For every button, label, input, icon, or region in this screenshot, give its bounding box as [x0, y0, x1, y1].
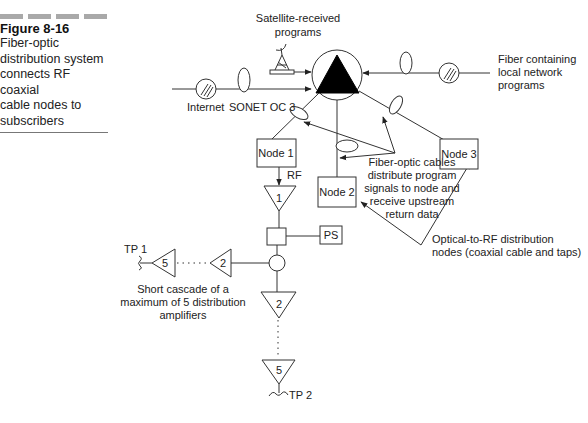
satellite-label: Satellite-received [256, 12, 340, 24]
splitter-icon [269, 255, 285, 271]
fiber-cables-label: receive upstream [370, 195, 454, 207]
callout-arrow [383, 117, 395, 153]
internet-label: Internet [187, 101, 224, 113]
local-fiber-label: programs [498, 79, 545, 91]
local-fiber-label: Fiber containing [498, 53, 576, 65]
tp1-label: TP 1 [124, 243, 147, 255]
power-inserter-box [267, 228, 286, 245]
fiber-loop-icon [400, 52, 412, 74]
optical-rf-label: Optical-to-RF distribution [432, 233, 554, 245]
amp-left-2-number: 2 [220, 257, 226, 269]
fiber-cables-label: signals to node and [364, 182, 459, 194]
optical-rf-label: nodes (coaxial cable and taps) [432, 246, 581, 258]
cascade-label: maximum of 5 distribution [120, 296, 245, 308]
amp-1-number: 1 [276, 192, 282, 204]
rf-label: RF [287, 169, 302, 181]
cascade-label: Short cascade of a [137, 283, 230, 295]
fiber-loop-icon [387, 94, 406, 116]
tp2-label: TP 2 [289, 389, 312, 401]
satellite-dish-icon [270, 44, 294, 74]
fiber-cables-label: Fiber-optic cables [369, 156, 456, 168]
fiber-loop-icon [238, 68, 250, 92]
node-2-label: Node 2 [319, 186, 354, 198]
satellite-label: programs [275, 26, 322, 38]
local-connector-icon [439, 63, 459, 83]
headend-hub-icon [312, 50, 362, 100]
node-1-label: Node 1 [258, 147, 293, 159]
fiber-loop-icon [336, 140, 358, 152]
internet-connector-icon [196, 79, 216, 99]
fiber-cables-label: distribute program [368, 169, 457, 181]
amp-down-5-number: 5 [276, 364, 282, 376]
fiber-cables-label: return data [385, 208, 439, 220]
fiber-distribution-diagram: Satellite-received programs Internet SON… [0, 0, 588, 423]
sonet-label: SONET OC 3 [229, 101, 295, 113]
amp-down-2-number: 2 [276, 298, 282, 310]
local-fiber-label: local network [498, 66, 563, 78]
amp-left-5-number: 5 [162, 257, 168, 269]
cascade-label: amplifiers [159, 309, 207, 321]
ps-label: PS [324, 229, 339, 241]
